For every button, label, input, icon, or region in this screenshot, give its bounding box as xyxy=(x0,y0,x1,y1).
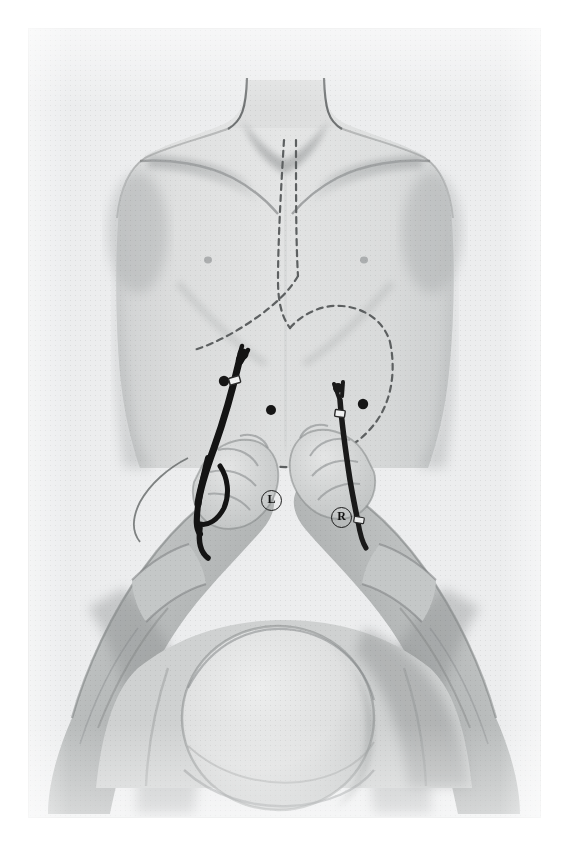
right-instrument-tip-knob xyxy=(333,383,343,393)
figure-container: L R xyxy=(0,0,571,854)
linea-alba-shade xyxy=(285,178,287,448)
instrument-marker-right: R xyxy=(331,507,352,528)
nipple-left xyxy=(204,257,212,264)
illustration-artwork xyxy=(28,28,541,818)
right-instrument-handle-band xyxy=(354,516,365,524)
nipple-right xyxy=(360,257,368,264)
instrument-marker-left: L xyxy=(261,490,282,511)
port-site-left-subcostal xyxy=(219,376,229,386)
right-instrument-collar xyxy=(334,409,345,417)
port-site-epigastric xyxy=(266,405,276,415)
port-site-right-subcostal xyxy=(358,399,368,409)
left-instrument-tip-knob xyxy=(238,349,249,360)
illustration-plate: L R xyxy=(28,28,541,818)
